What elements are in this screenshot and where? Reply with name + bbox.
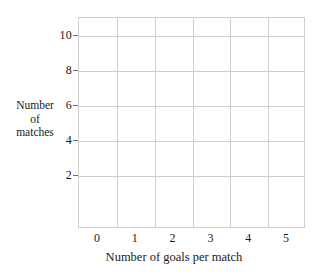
plot-area	[78, 17, 305, 228]
y-axis-title-line-3: matches	[4, 126, 66, 140]
x-axis-tick-labels: 0 1 2 3 4 5	[78, 232, 305, 248]
y-tick-label-10: 10	[46, 29, 72, 41]
x-tick-label-0: 0	[85, 232, 109, 244]
x-tick-label-4: 4	[236, 232, 260, 244]
x-tick-label-3: 3	[198, 232, 222, 244]
y-tick-label-2: 2	[46, 169, 72, 181]
x-tick-label-5: 5	[274, 232, 298, 244]
y-axis-title-line-1: Number	[4, 99, 66, 113]
x-axis-title: Number of goals per match	[0, 250, 324, 265]
gridline-vertical-3	[193, 18, 194, 227]
tick-mark-y-6	[73, 105, 78, 106]
gridline-vertical-2	[155, 18, 156, 227]
chart-screenshot: 10 8 6 4 2 0 1 2 3 4 5 Number of matches…	[0, 0, 324, 279]
x-tick-label-1: 1	[123, 232, 147, 244]
gridline-vertical-5	[268, 18, 269, 227]
gridline-horizontal-8	[79, 71, 304, 72]
gridline-horizontal-6	[79, 106, 304, 107]
gridline-horizontal-4	[79, 141, 304, 142]
gridline-horizontal-10	[79, 36, 304, 37]
tick-mark-y-10	[73, 35, 78, 36]
gridline-vertical-1	[117, 18, 118, 227]
x-tick-label-2: 2	[161, 232, 185, 244]
tick-mark-y-4	[73, 140, 78, 141]
y-axis-title: Number of matches	[4, 99, 66, 140]
tick-mark-y-2	[73, 175, 78, 176]
y-tick-label-8: 8	[46, 64, 72, 76]
y-axis-title-line-2: of	[4, 113, 66, 127]
gridline-horizontal-2	[79, 176, 304, 177]
gridline-vertical-4	[230, 18, 231, 227]
tick-mark-y-8	[73, 70, 78, 71]
